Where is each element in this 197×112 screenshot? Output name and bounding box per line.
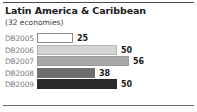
bar-value-label: 50 [121, 80, 132, 89]
bar-track: 56 [37, 56, 187, 66]
bar-db2005 [37, 33, 73, 43]
bar-category-label: DB2005 [5, 34, 35, 43]
chart-panel: Latin America & Caribbean (32 economies)… [0, 0, 197, 112]
bar-chart: DB2005 25 DB2006 50 DB2007 56 DB2008 [0, 33, 197, 93]
panel-subtitle: (32 economies) [5, 18, 63, 27]
bar-db2007 [37, 56, 129, 66]
chart-row: DB2008 38 [0, 68, 197, 79]
bar-db2009 [37, 79, 117, 89]
panel-title: Latin America & Caribbean [5, 5, 146, 16]
chart-row: DB2007 56 [0, 56, 197, 67]
bar-value-label: 50 [121, 46, 132, 55]
bar-db2008 [37, 68, 95, 78]
bar-category-label: DB2006 [5, 46, 35, 55]
bar-track: 25 [37, 33, 187, 43]
chart-row: DB2009 50 [0, 79, 197, 90]
bar-db2006 [37, 45, 117, 55]
bar-track: 50 [37, 79, 187, 89]
bar-value-label: 25 [77, 34, 88, 43]
bar-track: 50 [37, 45, 187, 55]
bar-value-label: 38 [99, 69, 110, 78]
chart-row: DB2006 50 [0, 45, 197, 56]
bar-value-label: 56 [133, 57, 144, 66]
bar-track: 38 [37, 68, 187, 78]
chart-row: DB2005 25 [0, 33, 197, 44]
bar-category-label: DB2009 [5, 80, 35, 89]
top-divider [3, 2, 194, 3]
bar-category-label: DB2007 [5, 57, 35, 66]
bottom-divider [3, 105, 194, 106]
bar-category-label: DB2008 [5, 69, 35, 78]
